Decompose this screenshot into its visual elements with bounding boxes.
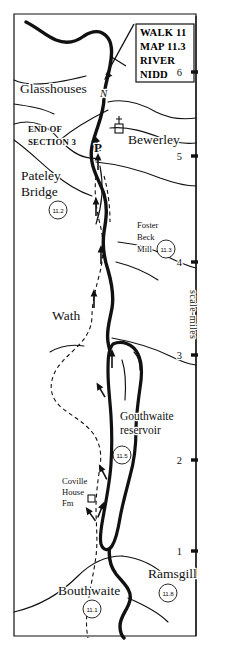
scale-tick-3: 3 — [177, 350, 182, 361]
map-canvas: N WALK 11 MAP 11.3 RIVER NIDD 6 5 4 3 2 … — [0, 0, 226, 658]
parking-symbol-label: P — [94, 140, 102, 155]
scale-tick-1: 1 — [177, 546, 182, 557]
feature-label-beck: Beck — [137, 232, 155, 242]
place-label-ramsgill: Ramsgill — [148, 566, 197, 581]
title-line-3: RIVER — [140, 55, 175, 66]
section-note-line-2: SECTION 3 — [28, 137, 76, 147]
feature-ref-gouthwaite-reservoir-text: 11.5 — [117, 452, 129, 459]
place-ref-bouthwaite-text: 11.1 — [87, 606, 99, 613]
feature-label-coville: Coville — [62, 476, 87, 486]
feature-label-foster: Foster — [137, 220, 159, 230]
section-note-line-1: END OF — [28, 124, 62, 134]
feature-label-reservoir: reservoir — [120, 424, 161, 436]
scale-tick-2: 2 — [177, 455, 182, 466]
place-ref-pateley-bridge: 11.2 — [49, 201, 67, 219]
place-ref-bouthwaite: 11.1 — [83, 600, 101, 618]
place-ref-pateley-bridge-text: 11.2 — [53, 207, 65, 214]
place-label-bewerley: Bewerley — [128, 132, 180, 147]
feature-label-gouthwaite: Gouthwaite — [120, 410, 174, 422]
feature-label-fm: Fm — [62, 498, 74, 508]
place-label-bridge: Bridge — [21, 184, 58, 199]
scale-tick-5: 5 — [177, 151, 182, 162]
feature-label-house: House — [62, 487, 84, 497]
place-label-wath: Wath — [52, 308, 80, 323]
scale-tick-4: 4 — [177, 257, 183, 268]
title-line-2: MAP 11.3 — [140, 41, 186, 52]
scale-caption: scale-miles — [188, 290, 199, 339]
feature-ref-foster-beck-mill-text: 11.3 — [161, 246, 173, 253]
feature-ref-foster-beck-mill: 11.3 — [157, 240, 175, 258]
place-ref-ramsgill: 11.8 — [159, 584, 177, 602]
scale-tick-6: 6 — [177, 67, 182, 78]
place-label-pateley: Pateley — [21, 168, 61, 183]
feature-label-mill: Mill — [137, 244, 152, 254]
place-ref-ramsgill-text: 11.8 — [163, 590, 175, 597]
feature-ref-gouthwaite-reservoir: 11.5 — [113, 446, 131, 464]
title-box: WALK 11 MAP 11.3 RIVER NIDD — [136, 24, 194, 82]
title-line-4: NIDD — [140, 69, 168, 80]
north-arrow-label: N — [99, 87, 108, 99]
river-nidd-map: N WALK 11 MAP 11.3 RIVER NIDD 6 5 4 3 2 … — [0, 0, 226, 658]
title-line-1: WALK 11 — [140, 27, 186, 38]
place-label-bouthwaite: Bouthwaite — [58, 583, 120, 598]
place-label-glasshouses: Glasshouses — [20, 81, 87, 96]
